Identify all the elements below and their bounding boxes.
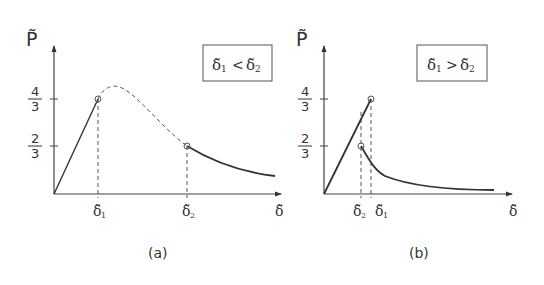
x-tick-label-delta2: δ̃ 2 [182, 203, 195, 220]
y-tick-label-4-3: 4 3 [298, 84, 312, 114]
unstable-branch-dashed [98, 86, 187, 146]
y-axis-label: P̃ [26, 28, 37, 50]
svg-text:2: 2 [190, 211, 195, 220]
svg-text:δ̃: δ̃ [427, 56, 436, 74]
svg-text:1: 1 [383, 211, 388, 220]
x-tick-label-delta2: δ̃ 2 [353, 203, 366, 220]
svg-text:<: < [232, 57, 244, 73]
y-axis-label: P̃ [296, 28, 307, 50]
condition-box: δ̃ 1 > δ̃ 2 [417, 45, 487, 81]
svg-text:>: > [446, 57, 458, 73]
softening-tail [187, 146, 275, 176]
y-tick-label-4-3: 4 3 [28, 84, 42, 114]
svg-text:4: 4 [301, 84, 309, 99]
figure: P̃ 4 3 2 3 δ̃ 1 δ̃ 2 δ̃ [0, 0, 544, 285]
svg-text:2: 2 [301, 131, 309, 146]
y-tick-label-2-3: 2 3 [28, 131, 42, 161]
svg-text:1: 1 [221, 64, 227, 74]
svg-text:3: 3 [301, 99, 309, 114]
caption-b: (b) [409, 245, 429, 261]
x-axis-label: δ̃ [275, 203, 283, 219]
caption-a: (a) [148, 245, 168, 261]
svg-text:2: 2 [31, 131, 39, 146]
svg-text:2: 2 [255, 64, 261, 74]
svg-text:2: 2 [361, 211, 366, 220]
svg-text:3: 3 [301, 146, 309, 161]
panel-a: P̃ 4 3 2 3 δ̃ 1 δ̃ 2 δ̃ [26, 28, 283, 261]
panel-b: P̃ 4 3 2 3 δ̃ 2 δ̃ 1 δ̃ δ̃ [296, 28, 517, 261]
svg-text:δ̃: δ̃ [212, 56, 221, 74]
svg-text:3: 3 [31, 146, 39, 161]
svg-text:2: 2 [469, 64, 475, 74]
svg-text:1: 1 [101, 211, 106, 220]
svg-text:δ̃: δ̃ [460, 56, 469, 74]
svg-text:3: 3 [31, 99, 39, 114]
x-tick-label-delta1: δ̃ 1 [375, 203, 388, 220]
y-tick-label-2-3: 2 3 [298, 131, 312, 161]
svg-text:1: 1 [436, 64, 442, 74]
loading-line [54, 99, 98, 194]
condition-box: δ̃ 1 < δ̃ 2 [203, 45, 272, 81]
x-tick-label-delta1: δ̃ 1 [93, 203, 106, 220]
svg-text:δ̃: δ̃ [246, 56, 255, 74]
svg-text:4: 4 [31, 84, 39, 99]
x-axis-label: δ̃ [509, 203, 517, 219]
softening-tail [361, 146, 494, 190]
